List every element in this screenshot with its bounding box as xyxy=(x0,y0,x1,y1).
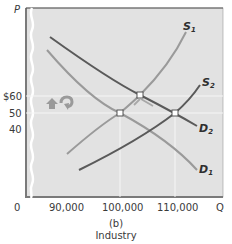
x-tick-110000: 110,000 xyxy=(157,202,198,213)
panel-label: (b) xyxy=(0,218,232,229)
chart: S1 S2 D2 D1 P $60 50 40 0 90,000 100,000… xyxy=(0,0,232,244)
x-tick-0: 0 xyxy=(14,202,20,213)
y-axis-label: P xyxy=(14,4,21,15)
equilibrium-d2-s1 xyxy=(137,92,143,98)
x-tick-100000: 100,000 xyxy=(102,202,143,213)
chart-caption: Industry xyxy=(0,230,232,241)
y-tick-60: $60 xyxy=(3,91,22,102)
equilibrium-d1-s1 xyxy=(117,110,123,116)
equilibrium-d2-s2 xyxy=(172,110,178,116)
y-tick-40: 40 xyxy=(9,124,22,135)
x-axis-label: Q xyxy=(216,202,224,213)
y-tick-50: 50 xyxy=(9,108,22,119)
x-tick-90000: 90,000 xyxy=(49,202,84,213)
